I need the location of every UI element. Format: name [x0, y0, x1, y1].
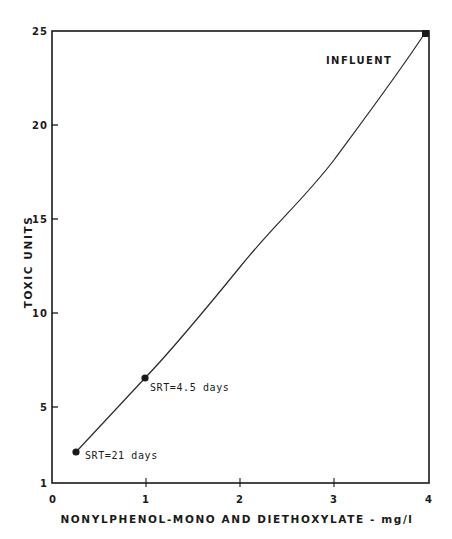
- y-tick-label: 20: [32, 120, 48, 131]
- annotation-srt-4-5: SRT=4.5 days: [150, 382, 229, 393]
- y-axis-title: TOXIC UNITS: [22, 216, 34, 309]
- annotation-srt-21: SRT=21 days: [85, 450, 158, 461]
- toxicity-chart: 25 20 15 10 5 1 0 1 2 3 4 TOXIC UNITS NO…: [0, 0, 452, 539]
- data-point-srt-4-5: [141, 374, 148, 381]
- data-point-influent: [422, 30, 429, 37]
- y-tick-label: 10: [32, 308, 48, 319]
- annotation-influent: INFLUENT: [326, 55, 392, 66]
- y-tick-label: 15: [32, 214, 48, 225]
- x-axis-title: NONYLPHENOL-MONO AND DIETHOXYLATE - mg/l: [60, 513, 413, 525]
- x-tick-label: 0: [49, 494, 57, 505]
- y-axis-ticks: [52, 125, 58, 407]
- x-tick-label: 3: [330, 494, 338, 505]
- y-tick-label: 5: [40, 402, 48, 413]
- y-tick-label: 1: [40, 478, 48, 489]
- data-curve: [76, 33, 425, 452]
- x-tick-label: 4: [425, 494, 433, 505]
- y-tick-label: 25: [32, 26, 48, 37]
- data-point-srt-21: [72, 448, 79, 455]
- x-tick-label: 2: [236, 494, 244, 505]
- x-tick-label: 1: [142, 494, 150, 505]
- plot-frame: [52, 31, 429, 483]
